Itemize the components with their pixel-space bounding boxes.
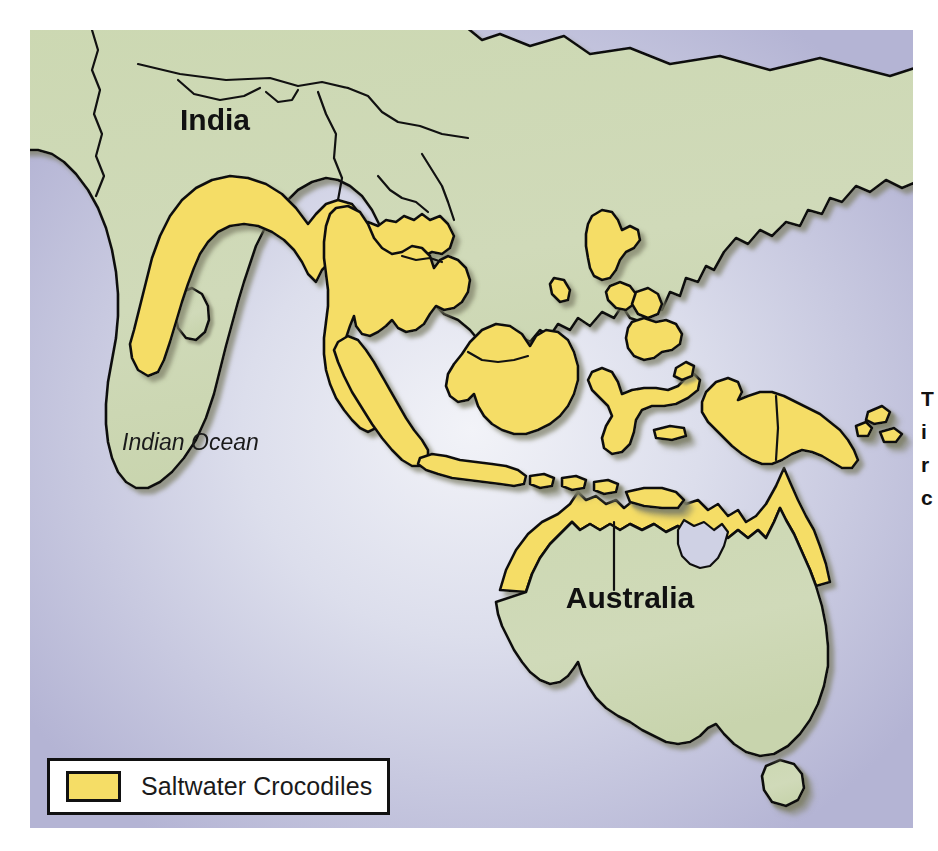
- distribution-map: India Indian Ocean Australia: [30, 30, 913, 828]
- side-caption-truncated: T i r c: [921, 382, 938, 517]
- india-label: India: [180, 103, 250, 136]
- range-seram: [654, 426, 686, 440]
- map-panel: India Indian Ocean Australia: [30, 30, 913, 828]
- range-solomon-2: [880, 428, 902, 442]
- range-new-britain: [856, 422, 872, 436]
- australia-label: Australia: [566, 581, 695, 614]
- range-lesser-sunda-3: [594, 480, 618, 494]
- map-legend: Saltwater Crocodiles: [47, 758, 390, 815]
- side-caption-line-4: c: [921, 481, 938, 514]
- legend-label: Saltwater Crocodiles: [141, 772, 372, 801]
- indian-ocean-label: Indian Ocean: [122, 429, 259, 455]
- side-caption-line-3: r: [921, 448, 938, 481]
- range-lesser-sunda-1: [530, 474, 554, 488]
- side-caption-line-2: i: [921, 415, 938, 448]
- range-lesser-sunda-2: [562, 476, 586, 490]
- side-caption-line-1: T: [921, 382, 938, 415]
- legend-swatch-crocodile-range: [66, 771, 121, 802]
- range-visayas-2: [632, 288, 662, 318]
